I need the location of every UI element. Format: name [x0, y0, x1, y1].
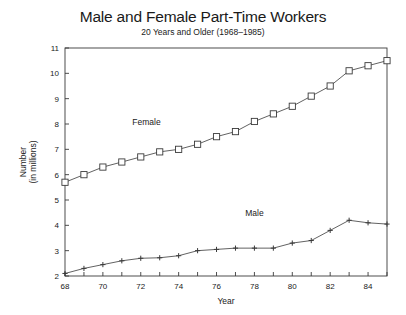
y-tick-label: 8	[55, 120, 60, 129]
data-point-marker	[157, 149, 163, 155]
x-tick-label: 74	[174, 282, 183, 291]
x-tick-label: 68	[61, 282, 70, 291]
y-tick-labels: 234567891011	[50, 44, 59, 281]
data-point-marker	[62, 179, 68, 185]
data-point-marker	[346, 68, 352, 74]
series-male	[62, 218, 389, 276]
x-tick-label: 72	[136, 282, 145, 291]
y-tick-label: 11	[51, 44, 60, 53]
y-axis-title-line2: (in millions)	[28, 140, 38, 183]
x-tick-label: 82	[326, 282, 335, 291]
data-point-marker	[308, 93, 314, 99]
chart-figure: Male and Female Part-Time Workers 20 Yea…	[0, 0, 406, 315]
y-tick-label: 6	[55, 171, 60, 180]
x-axis-title: Year	[217, 296, 234, 306]
x-tick-label: 80	[288, 282, 297, 291]
data-point-marker	[327, 83, 333, 89]
y-tick-label: 2	[55, 272, 60, 281]
y-tick-label: 5	[55, 196, 60, 205]
data-point-marker	[251, 118, 257, 124]
y-tick-label: 7	[55, 145, 60, 154]
data-point-marker	[194, 141, 200, 147]
data-point-marker	[270, 111, 276, 117]
data-point-marker	[176, 146, 182, 152]
data-point-marker	[100, 164, 106, 170]
x-tick-label: 84	[364, 282, 373, 291]
series-line	[65, 220, 387, 273]
x-tick-label: 78	[250, 282, 259, 291]
series-line	[65, 61, 387, 183]
plot-frame	[65, 48, 387, 276]
series-female	[62, 58, 390, 186]
axis-ticks	[65, 48, 387, 276]
y-tick-label: 3	[55, 247, 60, 256]
data-point-marker	[289, 103, 295, 109]
data-point-marker	[365, 63, 371, 69]
data-series	[62, 58, 390, 277]
data-point-marker	[138, 154, 144, 160]
y-tick-label: 4	[55, 221, 60, 230]
x-tick-labels: 687072747678808284	[61, 282, 374, 291]
data-point-marker	[119, 159, 125, 165]
axes	[65, 48, 387, 276]
y-tick-label: 10	[50, 69, 59, 78]
axis-titles: YearNumber(in millions)	[18, 140, 235, 306]
series-label-female: Female	[132, 117, 161, 127]
y-axis-title-line1: Number	[18, 147, 28, 177]
x-tick-label: 70	[98, 282, 107, 291]
data-point-marker	[213, 134, 219, 140]
data-point-marker	[81, 172, 87, 178]
chart-plot-area: 234567891011 687072747678808284 FemaleMa…	[0, 0, 406, 315]
series-annotations: FemaleMale	[132, 117, 264, 218]
x-tick-label: 76	[212, 282, 221, 291]
y-tick-label: 9	[55, 95, 60, 104]
series-label-male: Male	[245, 208, 264, 218]
data-point-marker	[384, 58, 390, 64]
y-axis-title: Number(in millions)	[18, 140, 38, 183]
data-point-marker	[232, 129, 238, 135]
